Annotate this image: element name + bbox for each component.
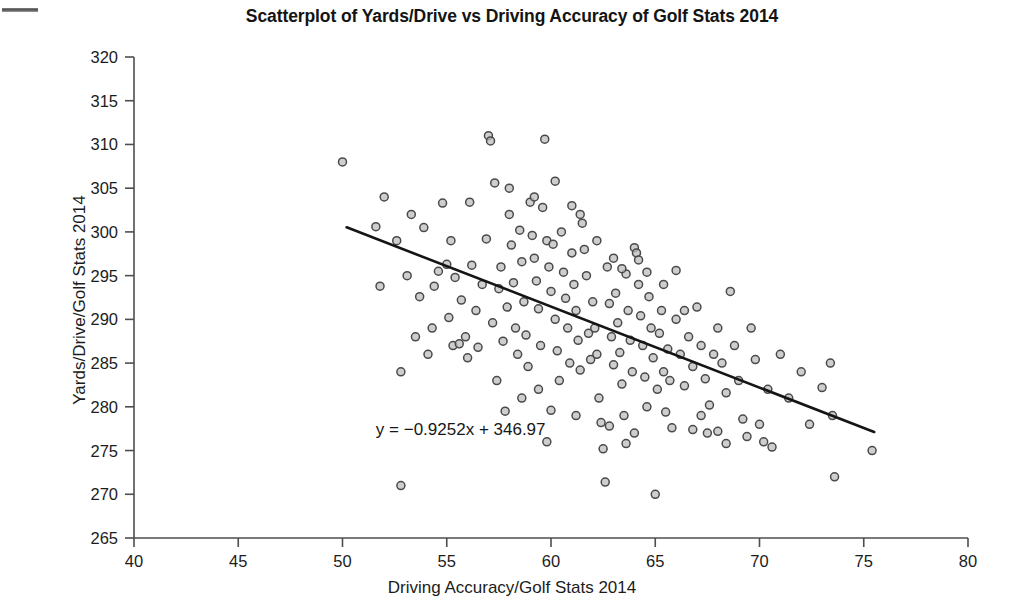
data-point — [380, 193, 388, 201]
y-tick-label: 290 — [90, 310, 118, 329]
data-point — [697, 412, 705, 420]
data-point — [653, 385, 661, 393]
data-point — [580, 245, 588, 253]
x-tick-label: 60 — [542, 552, 560, 571]
data-point — [868, 447, 876, 455]
data-point — [549, 240, 557, 248]
y-tick-label: 270 — [90, 485, 118, 504]
data-point — [635, 256, 643, 264]
data-point — [505, 184, 513, 192]
data-point — [768, 443, 776, 451]
data-point — [618, 265, 626, 273]
data-point — [622, 440, 630, 448]
data-point — [658, 307, 666, 315]
data-point — [468, 261, 476, 269]
data-point — [595, 394, 603, 402]
data-point — [714, 427, 722, 435]
data-point — [722, 440, 730, 448]
y-tick-label: 285 — [90, 354, 118, 373]
y-tick-label: 305 — [90, 179, 118, 198]
data-point — [618, 380, 626, 388]
data-point — [393, 237, 401, 245]
data-point — [593, 237, 601, 245]
data-point — [570, 280, 578, 288]
data-point — [603, 263, 611, 271]
data-point — [703, 429, 711, 437]
data-point — [747, 324, 755, 332]
y-tick-label: 310 — [90, 135, 118, 154]
data-point — [505, 210, 513, 218]
x-tick-label: 55 — [438, 552, 456, 571]
data-point — [568, 249, 576, 257]
data-point — [555, 377, 563, 385]
data-point — [645, 293, 653, 301]
data-point — [518, 394, 526, 402]
data-point — [637, 312, 645, 320]
data-point — [372, 223, 380, 231]
data-point — [397, 482, 405, 490]
data-point — [545, 263, 553, 271]
x-tick-label: 45 — [229, 552, 247, 571]
data-point — [701, 375, 709, 383]
data-point — [507, 241, 515, 249]
data-point — [660, 280, 668, 288]
y-axis-title: Yards/Drive/Golf Stats 2014 — [70, 60, 90, 540]
x-tick-label: 50 — [333, 552, 351, 571]
y-tick-label: 300 — [90, 222, 118, 241]
data-point — [624, 307, 632, 315]
data-point — [489, 319, 497, 327]
data-point — [743, 433, 751, 441]
data-point — [651, 490, 659, 498]
data-point — [514, 350, 522, 358]
data-point — [553, 347, 561, 355]
data-point — [497, 263, 505, 271]
data-point — [339, 158, 347, 166]
data-point — [522, 331, 530, 339]
data-point — [605, 422, 613, 430]
data-point — [518, 258, 526, 266]
data-point — [551, 177, 559, 185]
data-point — [532, 277, 540, 285]
data-point — [411, 333, 419, 341]
data-point — [797, 368, 805, 376]
data-point — [501, 407, 509, 415]
data-point — [635, 280, 643, 288]
data-point — [806, 420, 814, 428]
data-point — [528, 231, 536, 239]
plot-canvas — [0, 0, 1024, 613]
data-point — [551, 315, 559, 323]
data-point — [705, 401, 713, 409]
data-point — [751, 356, 759, 364]
data-point — [568, 202, 576, 210]
data-point — [647, 324, 655, 332]
data-point — [493, 377, 501, 385]
data-point — [445, 314, 453, 322]
data-point — [509, 279, 517, 287]
data-point — [730, 342, 738, 350]
data-point — [457, 296, 465, 304]
data-point — [537, 342, 545, 350]
data-point — [722, 389, 730, 397]
data-point — [403, 272, 411, 280]
data-point — [557, 228, 565, 236]
x-tick-label: 80 — [959, 552, 977, 571]
data-point — [416, 293, 424, 301]
data-point — [643, 403, 651, 411]
data-point — [718, 359, 726, 367]
data-point — [512, 324, 520, 332]
data-point — [376, 282, 384, 290]
data-point — [397, 368, 405, 376]
data-point — [726, 287, 734, 295]
data-point — [662, 408, 670, 416]
data-point — [407, 210, 415, 218]
data-point — [666, 377, 674, 385]
data-point — [534, 385, 542, 393]
x-axis-title: Driving Accuracy/Golf Stats 2014 — [0, 578, 1024, 598]
data-point — [614, 319, 622, 327]
y-tick-label: 320 — [90, 48, 118, 67]
data-point — [503, 303, 511, 311]
data-point — [630, 429, 638, 437]
data-point — [760, 438, 768, 446]
data-point — [756, 420, 764, 428]
data-point — [714, 324, 722, 332]
